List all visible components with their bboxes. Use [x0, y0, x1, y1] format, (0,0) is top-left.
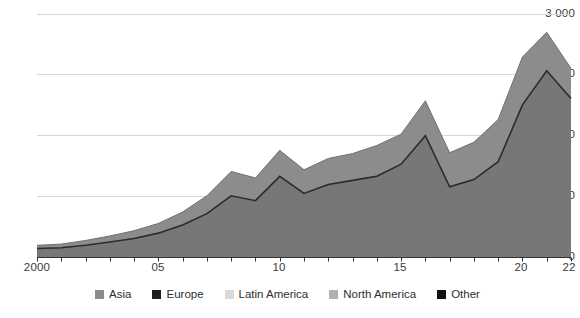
legend-label-asia: Asia [109, 289, 131, 301]
x-axis-tick-15: 15 [380, 262, 420, 274]
legend-label-other: Other [451, 289, 480, 301]
x-axis-tick-2000: 2000 [17, 262, 57, 274]
area-series-group [37, 32, 571, 257]
legend-swatch-latin-america [225, 290, 234, 299]
x-axis [37, 258, 572, 262]
legend-item-other[interactable]: Other [437, 289, 480, 301]
legend-swatch-asia [95, 290, 104, 299]
x-axis-tick-22: 22 [549, 262, 580, 274]
legend-label-latin-america: Latin America [239, 289, 309, 301]
legend-item-asia[interactable]: Asia [95, 289, 131, 301]
x-axis-tick-10: 10 [259, 262, 299, 274]
legend-item-north-america[interactable]: North America [329, 289, 416, 301]
legend-label-north-america: North America [343, 289, 416, 301]
legend-item-europe[interactable]: Europe [152, 289, 203, 301]
x-axis-tick-20: 20 [501, 262, 541, 274]
legend-label-europe: Europe [166, 289, 203, 301]
x-axis-tick-05: 05 [138, 262, 178, 274]
legend-swatch-europe [152, 290, 161, 299]
legend-swatch-north-america [329, 290, 338, 299]
chart-legend: Asia Europe Latin America North America … [0, 289, 575, 301]
legend-swatch-other [437, 290, 446, 299]
legend-item-latin-america[interactable]: Latin America [225, 289, 309, 301]
